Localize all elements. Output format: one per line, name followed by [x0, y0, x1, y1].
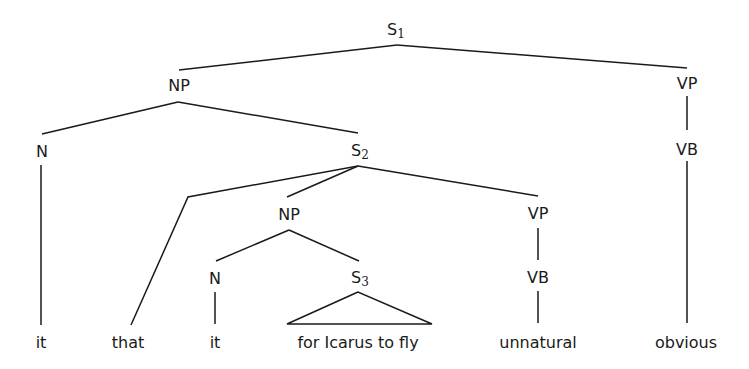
node-np2: NP — [278, 207, 300, 223]
triangle-s3 — [287, 292, 432, 324]
word-unnatural: unnatural — [499, 335, 576, 351]
word-it-2: it — [210, 335, 221, 351]
word-obvious: obvious — [655, 335, 717, 351]
edge-s2-np2 — [287, 166, 358, 197]
word-it-1: it — [36, 335, 47, 351]
node-n1: N — [36, 144, 48, 160]
edge-np2-n2 — [216, 230, 289, 261]
word-that: that — [112, 335, 145, 351]
edge-np1-s2 — [178, 102, 358, 133]
node-s2: S2 — [351, 143, 369, 161]
edge-s1-vp1 — [397, 45, 687, 68]
edge-s2-vp2 — [358, 166, 538, 196]
node-vb1: VB — [676, 142, 698, 158]
node-s3: S3 — [351, 270, 369, 288]
node-np1: NP — [168, 78, 190, 94]
edge-s1-np1 — [179, 45, 397, 70]
edge-np2-s3 — [289, 230, 359, 261]
node-vp2: VP — [528, 206, 549, 222]
word-for-icarus-to-fly: for Icarus to fly — [297, 335, 418, 351]
node-n2: N — [209, 271, 221, 287]
node-vb2: VB — [527, 270, 549, 286]
edge-np1-n1 — [42, 102, 178, 134]
node-s1: S1 — [387, 22, 405, 40]
node-vp1: VP — [677, 76, 698, 92]
tree-edges — [0, 0, 749, 369]
